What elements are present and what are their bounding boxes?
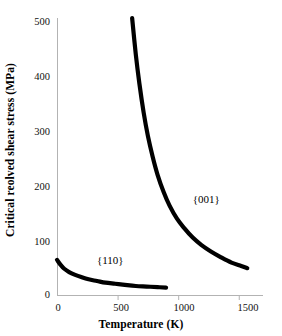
x-tick-label-500: 500 — [101, 302, 141, 313]
y-axis-title-text: Critical reolved shear stress (MPa) — [4, 63, 16, 237]
chart-figure: Critical reolved shear stress (MPa) 500 … — [0, 0, 282, 336]
series-label-110: {110} — [97, 254, 124, 266]
y-tick-label-0: 0 — [22, 289, 50, 300]
x-tick-label-0: 0 — [38, 302, 78, 313]
plot-canvas — [57, 18, 263, 296]
y-axis-title: Critical reolved shear stress (MPa) — [0, 0, 20, 300]
x-axis-title: Temperature (K) — [0, 318, 282, 330]
curve-001 — [132, 18, 247, 268]
series-label-001: {001} — [193, 193, 220, 205]
x-tick-label-1000: 1000 — [164, 302, 204, 313]
plot-area: {110} {001} — [57, 18, 263, 296]
x-axis-tick-marks — [118, 296, 239, 300]
y-tick-label-400: 400 — [22, 71, 50, 82]
x-tick-label-1500: 1500 — [228, 302, 268, 313]
y-tick-label-100: 100 — [22, 236, 50, 247]
y-tick-label-500: 500 — [22, 16, 50, 27]
y-tick-label-200: 200 — [22, 181, 50, 192]
y-tick-label-300: 300 — [22, 126, 50, 137]
